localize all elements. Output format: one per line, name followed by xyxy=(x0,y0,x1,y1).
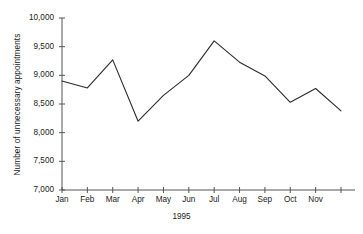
x-axis-title: 1995 xyxy=(0,212,363,221)
y-tick-label: 9,500 xyxy=(10,42,54,51)
y-tick-label: 7,500 xyxy=(10,156,54,165)
line-chart-figure: Number of unnecessary appointments 10,00… xyxy=(0,0,363,234)
y-tick-label: 8,000 xyxy=(10,128,54,137)
y-tick-label: 10,000 xyxy=(10,13,54,22)
y-tick-label: 9,000 xyxy=(10,70,54,79)
x-tick-label: Nov xyxy=(301,195,331,204)
y-tick-label: 8,500 xyxy=(10,99,54,108)
y-tick-label: 7,000 xyxy=(10,185,54,194)
data-series-line xyxy=(62,41,341,121)
